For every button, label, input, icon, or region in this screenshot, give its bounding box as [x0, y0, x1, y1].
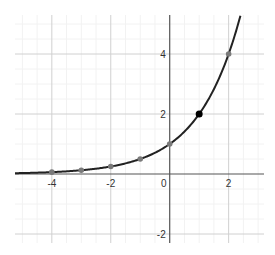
- x-tick-label: -2: [106, 178, 115, 189]
- minor-gridlines: [15, 15, 264, 243]
- x-tick-label: 0: [161, 178, 167, 189]
- curve-point[interactable]: [226, 51, 232, 57]
- curve-point[interactable]: [79, 167, 85, 173]
- x-tick-label: -4: [47, 178, 56, 189]
- x-tick-label: 2: [226, 178, 232, 189]
- curve-point[interactable]: [137, 156, 143, 162]
- y-tick-label: 2: [160, 109, 166, 120]
- highlighted-point[interactable]: [196, 111, 203, 118]
- curve-point[interactable]: [49, 169, 55, 175]
- y-tick-label: 4: [160, 49, 166, 60]
- y-tick-label: -2: [157, 229, 166, 240]
- curve-point[interactable]: [167, 141, 173, 147]
- function-plot[interactable]: -4-202-224: [0, 0, 275, 255]
- curve-point[interactable]: [108, 164, 114, 170]
